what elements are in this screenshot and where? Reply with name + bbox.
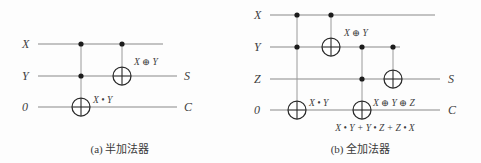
control-dot-xy-toffoli <box>359 44 364 49</box>
input-label-z: Z <box>254 73 261 85</box>
input-label-zero: 0 <box>254 104 260 116</box>
full-adder-circuit-graphic <box>240 0 481 163</box>
control-dot-x-cnot <box>119 41 124 46</box>
xor-gate-carry-first <box>288 101 306 119</box>
control-dot-x-toffoli <box>294 12 299 17</box>
figure-page: X Y 0 S C X ⊕ Y X • Y (a) 半加法器 <box>0 0 481 163</box>
input-label-y: Y <box>22 70 29 82</box>
xor-gate-carry-second <box>353 101 371 119</box>
xor-gate-sum <box>384 70 402 88</box>
annotation-x-xor-y: X ⊕ Y <box>134 58 158 68</box>
input-label-zero: 0 <box>22 101 28 113</box>
control-dot-y-toffoli <box>294 44 299 49</box>
control-dot-z-toffoli <box>359 76 364 81</box>
xor-gate-carry <box>72 98 90 116</box>
control-dot-x-toffoli <box>78 41 83 46</box>
xor-gate-sum <box>113 67 131 85</box>
annotation-x-and-y: X • Y <box>309 99 328 109</box>
carry-expression: X • Y + Y • Z + Z • X <box>290 124 460 134</box>
output-label-c: C <box>184 101 192 113</box>
output-label-s: S <box>448 73 454 85</box>
figure-full-adder: X Y Z 0 S C X ⊕ Y X • Y X ⊕ Y ⊕ Z X • Y … <box>240 0 481 163</box>
caption-half-adder: (a) 半加法器 <box>0 140 240 156</box>
annotation-x-and-y: X • Y <box>93 96 112 106</box>
xor-gate-xy <box>322 38 340 56</box>
input-label-y: Y <box>254 41 261 53</box>
control-dot-x-cnot <box>328 12 333 17</box>
annotation-x-xor-y-xor-z: X ⊕ Y ⊕ Z <box>373 99 415 109</box>
half-adder-circuit-graphic <box>0 0 240 163</box>
annotation-x-xor-y: X ⊕ Y <box>344 29 368 39</box>
output-label-c: C <box>448 104 456 116</box>
input-label-x: X <box>22 38 29 50</box>
input-label-x: X <box>254 9 261 21</box>
control-dot-xy-cnot <box>390 44 395 49</box>
figure-half-adder: X Y 0 S C X ⊕ Y X • Y (a) 半加法器 <box>0 0 240 163</box>
output-label-s: S <box>184 70 190 82</box>
control-dot-y-toffoli <box>78 73 83 78</box>
caption-full-adder: (b) 全加法器 <box>240 140 481 156</box>
